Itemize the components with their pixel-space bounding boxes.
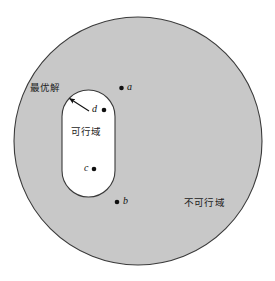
point-label-d: d [92,104,97,114]
feasible-region-shape [62,90,115,197]
label-infeasible-region: 不可行域 [184,198,225,208]
point-marker-a [119,86,124,91]
label-feasible-region: 可行域 [71,127,102,137]
point-marker-c [92,167,97,172]
point-label-a: a [127,82,132,92]
label-optimal-solution: 最优解 [30,83,61,93]
infeasible-region-shape [14,17,262,265]
feasible-region-diagram: 最优解 可行域 不可行域 a d c b [0,0,275,281]
point-marker-d [102,108,107,113]
point-marker-b [115,200,120,205]
diagram-canvas [0,0,275,281]
point-label-b: b [123,196,128,206]
point-label-c: c [84,163,88,173]
